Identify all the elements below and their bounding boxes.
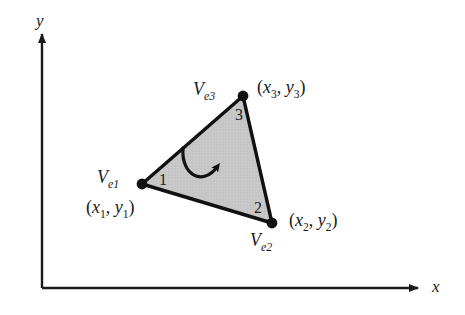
coord-3-y: y: [286, 77, 294, 97]
diagram-svg: [0, 0, 465, 315]
vertex-label-2: Ve2: [250, 231, 272, 253]
vertex-label-3: Ve3: [193, 80, 215, 102]
coord-1-close: ): [129, 197, 135, 217]
coord-2-y: y: [318, 210, 326, 230]
vertex-dot-2: [267, 218, 278, 229]
vertex-label-3-sub: e3: [204, 89, 215, 103]
coord-2-sep: ,: [309, 210, 318, 230]
vertex-label-3-base: V: [193, 79, 204, 99]
vertex-label-2-sub: e2: [261, 240, 272, 254]
coord-1-sep: ,: [106, 197, 115, 217]
vertex-label-1: Ve1: [97, 168, 119, 190]
triangle-element: [142, 96, 272, 223]
coord-1-x: x: [92, 197, 100, 217]
vertex-label-2-base: V: [250, 230, 261, 250]
vertex-dot-1: [137, 179, 148, 190]
vertex-coords-3: (x3, y3): [257, 78, 306, 100]
vertex-dot-3: [238, 91, 249, 102]
coord-3-sep: ,: [277, 77, 286, 97]
coord-2-close: ): [332, 210, 338, 230]
vertex-coords-1: (x1, y1): [86, 198, 135, 220]
node-number-1: 1: [159, 172, 167, 188]
coord-3-x: x: [263, 77, 271, 97]
coord-1-y: y: [115, 197, 123, 217]
figure-canvas: y x Ve3 (x3, y3) 3 Ve1 (x1, y1) 1 Ve2 (x…: [0, 0, 465, 315]
vertex-coords-2: (x2, y2): [289, 211, 338, 233]
node-number-2: 2: [254, 200, 262, 216]
vertex-label-1-base: V: [97, 167, 108, 187]
y-axis-label: y: [36, 12, 44, 29]
node-number-3: 3: [235, 107, 243, 123]
coord-2-x: x: [295, 210, 303, 230]
vertex-label-1-sub: e1: [108, 177, 119, 191]
x-axis-label: x: [432, 278, 440, 295]
coord-3-close: ): [300, 77, 306, 97]
